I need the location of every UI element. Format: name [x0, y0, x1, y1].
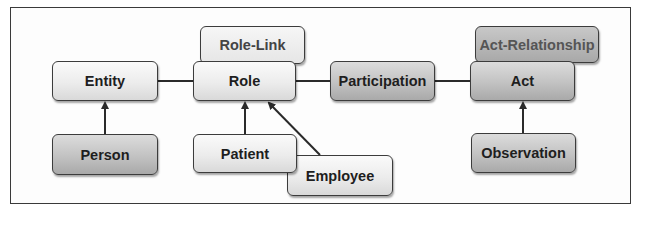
- node-person: Person: [52, 134, 158, 175]
- node-observation: Observation: [471, 133, 576, 173]
- node-role-link: Role-Link: [200, 26, 305, 64]
- node-participation: Participation: [330, 61, 435, 101]
- node-label: Person: [80, 147, 129, 163]
- node-label: Patient: [221, 146, 269, 162]
- node-employee: Employee: [287, 155, 393, 196]
- node-role: Role: [193, 61, 296, 101]
- node-patient: Patient: [193, 134, 297, 173]
- node-label: Observation: [481, 145, 566, 161]
- node-label: Participation: [339, 73, 427, 89]
- node-label: Role: [229, 73, 260, 89]
- node-label: Employee: [306, 168, 375, 184]
- node-act: Act: [470, 61, 575, 101]
- node-entity: Entity: [52, 61, 158, 101]
- node-label: Act: [511, 73, 534, 89]
- node-label: Role-Link: [219, 37, 285, 53]
- node-label: Act-Relationship: [479, 37, 594, 53]
- node-label: Entity: [85, 73, 125, 89]
- node-act-relationship: Act-Relationship: [475, 26, 599, 63]
